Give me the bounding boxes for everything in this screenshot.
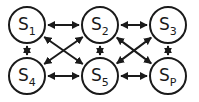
node-sp: SP <box>150 58 186 94</box>
node-s3: S3 <box>150 7 186 43</box>
node-subscript: P <box>170 76 177 89</box>
node-subscript: 1 <box>29 25 36 38</box>
node-subscript: 5 <box>102 76 109 89</box>
node-subscript: 4 <box>29 76 36 89</box>
nodes: S1S2S3S4S5SP <box>9 7 186 94</box>
node-s4: S4 <box>9 58 45 94</box>
node-subscript: 2 <box>102 25 109 38</box>
node-subscript: 3 <box>170 25 177 38</box>
node-s5: S5 <box>82 58 118 94</box>
node-s1: S1 <box>9 7 45 43</box>
state-diagram: S1S2S3S4S5SP <box>0 0 199 102</box>
node-s2: S2 <box>82 7 118 43</box>
